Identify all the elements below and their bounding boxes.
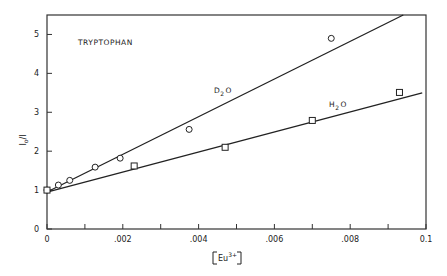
data-point-circle	[186, 126, 192, 132]
axis-ticks: 0123450.002.004.006.0080.1	[34, 30, 432, 244]
plot-frame	[47, 15, 426, 229]
x-tick-label: .008	[341, 235, 359, 244]
y-tick-label: 2	[34, 147, 39, 156]
fit-line-h2o	[47, 93, 422, 192]
y-tick-label: 1	[34, 186, 39, 195]
data-point-circle	[67, 177, 73, 183]
data-point-circle	[92, 164, 98, 170]
svg-text:H2O: H2O	[329, 100, 347, 111]
data-point-circle	[55, 182, 61, 188]
y-tick-label: 0	[34, 225, 39, 234]
data-point-square	[131, 163, 137, 169]
y-axis-label: Io/I	[19, 134, 29, 145]
y-tick-label: 5	[34, 30, 39, 39]
chart-annotation: TRYPTOPHAN	[77, 38, 133, 47]
data-points	[44, 35, 402, 193]
data-point-circle	[328, 35, 334, 41]
x-tick-label: .004	[190, 235, 208, 244]
x-tick-label: 0	[44, 235, 49, 244]
data-point-square	[396, 89, 402, 95]
stern-volmer-chart: 0123450.002.004.006.0080.1 TRYPTOPHAN D2…	[0, 0, 447, 276]
data-point-square	[44, 187, 50, 193]
x-axis-label: Eu3+	[213, 251, 241, 264]
y-tick-label: 3	[34, 108, 39, 117]
svg-text:D2O: D2O	[214, 86, 232, 97]
data-point-square	[222, 144, 228, 150]
data-point-circle	[117, 155, 123, 161]
x-tick-label: .006	[265, 235, 283, 244]
series-label-h2o: H2O	[329, 100, 347, 111]
y-tick-label: 4	[34, 69, 39, 78]
svg-text:Io/I: Io/I	[19, 134, 29, 145]
data-point-square	[309, 117, 315, 123]
svg-text:Eu3+: Eu3+	[218, 251, 237, 263]
series-label-d2o: D2O	[214, 86, 232, 97]
x-tick-label: 0.1	[420, 235, 433, 244]
x-tick-label: .002	[114, 235, 132, 244]
